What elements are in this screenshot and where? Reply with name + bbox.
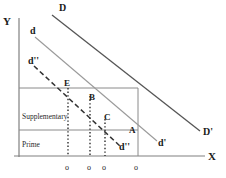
curve-end-label-d-double-prime: d'' [119, 141, 130, 152]
demand-curve-d-double-prime [34, 66, 120, 146]
curve-label-d: d [30, 25, 36, 36]
curve-end-label-D-prime: D' [203, 126, 213, 137]
curve-label-d-double-prime: d'' [28, 55, 39, 66]
x-tick-label-4: o [134, 163, 138, 172]
x-tick-label-1: o [65, 163, 69, 172]
demand-curve-d [35, 37, 157, 141]
x-tick-label-3: o [102, 163, 106, 172]
curve-label-D: D [59, 2, 66, 13]
figure-canvas: Y X D D' d d' d'' d'' E B C A Supplement… [0, 0, 226, 178]
region-label-supplementary: Supplementary [22, 112, 68, 121]
demand-curve-diagram: Y X D D' d d' d'' d'' E B C A Supplement… [0, 0, 226, 178]
demand-curve-D [52, 15, 200, 131]
point-label-B: B [89, 92, 95, 102]
y-axis-label: Y [3, 15, 11, 27]
x-axis-label: X [208, 150, 216, 162]
region-label-prime: Prime [22, 140, 41, 149]
x-tick-label-2: o [87, 163, 91, 172]
point-label-A: A [129, 125, 136, 135]
point-label-C: C [104, 112, 111, 122]
point-label-E: E [64, 78, 70, 88]
curve-end-label-d-prime: d' [158, 137, 167, 148]
